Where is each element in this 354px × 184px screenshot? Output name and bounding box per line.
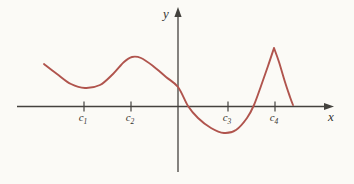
figure-background (0, 0, 354, 184)
function-graph-figure: x y c1c2c3c4 (0, 0, 354, 184)
y-axis-label: y (161, 6, 169, 21)
graph-canvas: x y c1c2c3c4 (0, 0, 354, 184)
x-axis-label: x (327, 109, 334, 124)
